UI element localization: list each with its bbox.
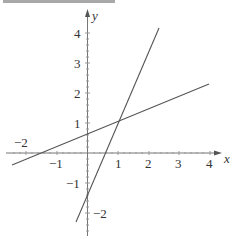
x-tick-label: 3 (175, 156, 182, 171)
line-chart: −2 −1 1 2 3 4 x 4 3 2 1 −1 −2 y (0, 0, 236, 239)
y-axis-label: y (90, 8, 98, 23)
x-axis-arrow-icon (214, 151, 222, 156)
y-tick-label: −2 (93, 206, 107, 221)
x-tick-label: −2 (14, 135, 28, 150)
y-tick-label: 2 (74, 86, 81, 101)
y-tick-label: 4 (74, 26, 81, 41)
x-tick-label: 1 (115, 156, 122, 171)
x-axis: −2 −1 1 2 3 4 x (6, 135, 230, 171)
x-tick-label: −1 (49, 156, 63, 171)
x-axis-label: x (223, 151, 230, 166)
x-tick-label: 2 (145, 156, 152, 171)
y-axis-arrow-icon (85, 9, 90, 17)
x-tick-label: 4 (206, 156, 213, 171)
y-axis: 4 3 2 1 −1 −2 y (66, 8, 107, 236)
y-tick-label: 1 (74, 116, 81, 131)
y-tick-label: −1 (66, 176, 80, 191)
y-tick-label: 3 (74, 56, 81, 71)
